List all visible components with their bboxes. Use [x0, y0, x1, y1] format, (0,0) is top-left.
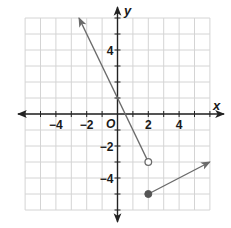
x-tick-label: 2 — [145, 118, 152, 132]
y-tick-label: 4 — [107, 44, 114, 58]
y-tick-label: −2 — [100, 140, 114, 154]
piecewise-function-graph: −4−2244−2−4 x y O — [0, 0, 231, 228]
origin-label: O — [106, 117, 116, 131]
y-tick-label: −4 — [100, 172, 114, 186]
x-tick-label: −4 — [49, 118, 63, 132]
y-axis-label: y — [123, 3, 132, 18]
x-tick-label: −2 — [80, 118, 94, 132]
axes — [18, 7, 224, 222]
piece-1-segment — [79, 18, 148, 162]
x-tick-label: 4 — [176, 118, 183, 132]
closed-endpoint — [145, 191, 152, 198]
open-endpoint — [145, 159, 152, 166]
function-series — [79, 18, 210, 198]
x-axis-label: x — [212, 98, 221, 113]
